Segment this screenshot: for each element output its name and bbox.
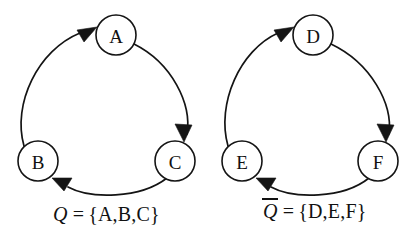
set-equals-left: = [73,203,84,225]
node-b-label: B [32,152,45,173]
node-f-label: F [373,152,384,173]
cluster-q: A B C [18,15,195,195]
edge-a-to-c [134,44,188,134]
set-members-left: {A,B,C} [88,203,160,225]
node-e-label: E [236,152,248,173]
set-label-q-bar: Q={D,E,F} [262,200,367,223]
node-d-label: D [306,26,320,47]
arrowhead-into-f [377,124,394,142]
edge-d-to-f [331,44,389,134]
arrowhead-into-d [274,27,294,42]
node-c-label: C [169,152,182,173]
arrowhead-into-b [52,178,72,191]
arrowhead-into-c [175,124,192,142]
set-equals-right: = [283,200,294,222]
arrowhead-into-e [256,178,276,191]
set-symbol-q: Q [52,203,69,226]
node-a[interactable]: A [96,15,136,55]
node-a-label: A [109,26,123,47]
node-d[interactable]: D [293,15,333,55]
node-c[interactable]: C [155,141,195,181]
node-e[interactable]: E [222,141,262,181]
edge-b-to-a [21,33,80,146]
arrowhead-into-a [77,27,97,42]
node-f[interactable]: F [358,141,398,181]
edge-f-to-e [271,178,369,195]
set-symbol-q-bar: Q [262,200,279,223]
set-members-right: {D,E,F} [298,200,366,222]
diagram-root: A B C [0,0,410,250]
cluster-q-bar: D E F [222,15,398,195]
set-label-q: Q={A,B,C} [52,203,160,226]
node-b[interactable]: B [18,141,58,181]
edge-c-to-b [68,178,167,195]
edge-e-to-d [225,33,278,146]
